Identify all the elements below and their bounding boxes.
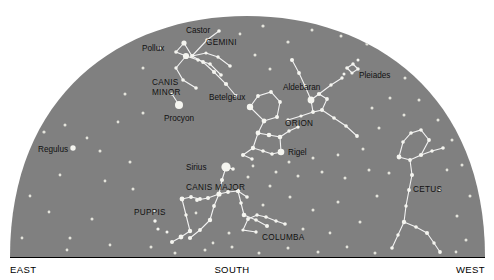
star-field: [174, 252, 177, 255]
star-field: [337, 201, 340, 204]
star-field: [270, 152, 274, 156]
constellation-label-canis-major: CANIS MAJOR: [186, 183, 245, 192]
constellation-label-gemini: GEMINI: [206, 38, 237, 47]
star-label-castor: Castor: [186, 26, 210, 35]
star-field: [246, 217, 250, 221]
star-field: [59, 174, 62, 177]
star-pleiades-member: [343, 73, 346, 76]
star-field: [441, 146, 445, 150]
star-field: [407, 188, 411, 192]
star-field: [311, 110, 315, 114]
star-field: [376, 195, 379, 198]
star-field: [99, 150, 102, 153]
star-field: [256, 131, 261, 136]
star-field: [184, 213, 187, 216]
constellation-label-puppis: PUPPIS: [134, 208, 166, 217]
star-field: [174, 50, 178, 54]
star-field: [252, 165, 255, 168]
star-pleiades-member: [351, 62, 354, 65]
star-field: [278, 100, 282, 104]
star-field: [42, 130, 45, 133]
star-field: [297, 175, 300, 178]
constellation-label-columba: COLUMBA: [262, 233, 305, 242]
star-field: [275, 115, 279, 119]
star-field: [247, 176, 250, 179]
star-field: [275, 171, 278, 174]
star-field: [216, 191, 221, 196]
star-field: [446, 169, 449, 172]
star-field: [404, 204, 407, 207]
star-field: [469, 195, 472, 198]
star-field: [312, 157, 315, 160]
star-field: [153, 219, 156, 222]
star-field: [340, 76, 343, 79]
star-field: [329, 83, 332, 86]
star-field: [190, 54, 194, 58]
star-label-aldebaran: Aldebaran: [283, 83, 321, 92]
star-field: [241, 228, 244, 231]
star-field: [254, 218, 258, 222]
star-field: [287, 247, 290, 250]
star-field: [228, 64, 232, 68]
star-field: [201, 60, 205, 64]
star-field: [204, 51, 207, 54]
star-field: [451, 139, 454, 142]
star-label-sirius: Sirius: [186, 163, 206, 172]
star-field: [396, 233, 399, 236]
star-field: [287, 129, 290, 132]
compass-label-east: EAST: [10, 264, 36, 275]
star-field: [206, 196, 210, 200]
star-field: [241, 153, 245, 157]
star-field: [461, 164, 464, 167]
star-field: [401, 140, 405, 144]
star-field: [317, 251, 320, 254]
star-field: [321, 171, 324, 174]
star-field: [427, 138, 431, 142]
star-field: [262, 204, 265, 207]
star-field: [368, 169, 371, 172]
star-field: [231, 246, 234, 249]
star-field: [188, 236, 192, 240]
star-field: [196, 58, 199, 61]
constellation-label-canis-minor-line2: MINOR: [152, 88, 181, 97]
star-field: [374, 252, 377, 255]
star-label-regulus: Regulus: [38, 145, 68, 154]
star-field: [124, 93, 127, 96]
star-field: [64, 124, 67, 127]
star-field: [332, 116, 336, 120]
star-field: [329, 232, 332, 235]
star-field: [269, 185, 272, 188]
star-field: [198, 228, 202, 232]
star-field: [278, 135, 283, 140]
star-field: [346, 246, 349, 249]
star-field: [419, 128, 423, 132]
star-field: [261, 149, 265, 153]
star-field: [129, 161, 132, 164]
star-field: [302, 228, 305, 231]
star-field: [344, 124, 348, 128]
star-field: [254, 54, 257, 57]
star-field: [48, 211, 51, 214]
star-field: [195, 212, 198, 215]
star-field: [311, 29, 314, 32]
star-field: [250, 157, 253, 160]
star-aldebaran: [308, 97, 315, 104]
star-field: [340, 35, 343, 38]
star-field: [359, 221, 362, 224]
star-field: [390, 246, 394, 250]
star-field: [274, 219, 277, 222]
star-field: [286, 40, 289, 43]
star-pleiades-member: [345, 66, 349, 70]
star-field: [362, 148, 365, 151]
star-field: [91, 218, 94, 221]
star-field: [320, 108, 324, 112]
star-field: [242, 213, 247, 218]
star-field: [418, 99, 421, 102]
star-field: [402, 220, 406, 224]
star-regulus: [70, 145, 75, 150]
star-field: [142, 67, 145, 70]
star-field: [204, 249, 207, 252]
star-field: [29, 195, 32, 198]
star-label-pollux: Pollux: [142, 44, 164, 53]
star-field: [430, 149, 433, 152]
